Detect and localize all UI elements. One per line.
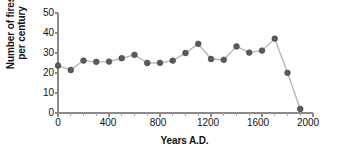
- data-point: [132, 52, 138, 58]
- fire-frequency-chart: Number of fires per century 50 40 30 20 …: [0, 0, 341, 157]
- data-point: [246, 50, 252, 56]
- data-point: [183, 50, 189, 56]
- data-point: [297, 106, 303, 112]
- data-point: [285, 70, 291, 76]
- axes: [55, 13, 314, 117]
- data-point: [68, 67, 74, 73]
- data-point: [81, 58, 87, 64]
- data-point: [221, 57, 227, 63]
- data-point: [259, 48, 265, 54]
- data-point: [272, 36, 278, 42]
- data-point: [119, 55, 125, 61]
- data-point: [157, 60, 163, 66]
- data-point: [234, 44, 240, 50]
- data-point: [208, 56, 214, 62]
- data-point: [195, 41, 201, 47]
- data-point: [170, 58, 176, 64]
- plot-area: [0, 0, 341, 157]
- data-point: [144, 60, 150, 66]
- data-point: [106, 59, 112, 65]
- data-point: [55, 63, 61, 69]
- data-point: [93, 59, 99, 65]
